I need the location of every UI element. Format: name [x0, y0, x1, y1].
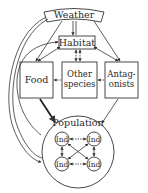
other-species-label-line2: species	[64, 79, 96, 89]
habitat-label: Habitat	[59, 37, 96, 48]
individual-node: Ind	[55, 132, 69, 146]
other-species-node: Other species	[62, 62, 97, 98]
population-node: Population Ind Ind Ind Ind	[42, 116, 114, 188]
antagonists-label-line1: Antag-	[106, 69, 136, 79]
other-species-label-line1: Other	[67, 69, 93, 79]
antagonists-label-line2: onists	[109, 79, 134, 89]
population-ecology-diagram: Weather Habitat Food Other species Antag…	[0, 0, 148, 193]
weather-node: Weather	[44, 9, 104, 23]
svg-text:Ind: Ind	[88, 160, 101, 169]
antagonists-node: Antag- onists	[105, 62, 138, 98]
individual-node: Ind	[87, 132, 101, 146]
population-label: Population	[52, 117, 103, 128]
individual-node: Ind	[87, 157, 101, 171]
svg-text:Ind: Ind	[88, 135, 101, 144]
svg-text:Ind: Ind	[56, 135, 69, 144]
weather-label: Weather	[54, 9, 95, 20]
individual-node: Ind	[55, 157, 69, 171]
food-node: Food	[20, 62, 53, 98]
svg-text:Ind: Ind	[56, 160, 69, 169]
food-label: Food	[25, 74, 49, 85]
habitat-node: Habitat	[59, 36, 96, 49]
